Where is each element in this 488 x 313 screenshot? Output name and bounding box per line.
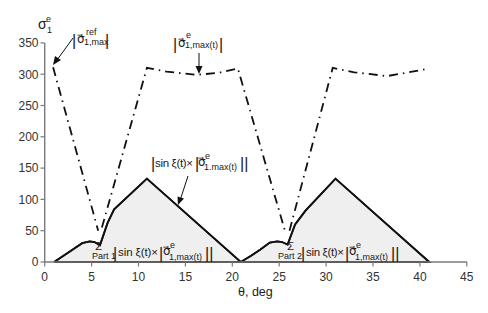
x-tick-label: 5 bbox=[88, 270, 95, 284]
sup-e: e bbox=[205, 151, 210, 161]
sigma-max-t-curve bbox=[53, 67, 98, 230]
annotation-sigma-ref-max: | σ⃗ ref 1,max | bbox=[72, 27, 109, 49]
y-axis-label: σ e 1 bbox=[38, 14, 52, 35]
y-tick-label: 100 bbox=[18, 193, 38, 207]
x-tick-label: 30 bbox=[319, 270, 333, 284]
abs-bar-close: || bbox=[240, 155, 248, 172]
sum-sin-product-curve bbox=[54, 179, 429, 262]
chart-svg: 050100150200250300350 051015202530354045… bbox=[0, 0, 488, 313]
sub-1-max-t: 1,max(t) bbox=[355, 252, 388, 262]
sub-1-max-t: 1.max(t) bbox=[204, 162, 237, 172]
arrow-to-ref-point-icon bbox=[53, 38, 73, 65]
y-label-sup: e bbox=[46, 14, 51, 24]
y-tick-label: 350 bbox=[18, 36, 38, 50]
y-tick-label: 150 bbox=[18, 161, 38, 175]
y-label-sub: 1 bbox=[47, 25, 52, 35]
annotation-sigma-max-t: | σ⃗ e 1,max(t) | bbox=[173, 30, 223, 53]
abs-bar-close: | bbox=[219, 36, 223, 53]
arrow-to-max-curve-icon bbox=[196, 53, 203, 74]
sup-ref: ref bbox=[86, 27, 97, 37]
x-tick-label: 35 bbox=[366, 270, 380, 284]
x-axis-ticks: 051015202530354045 bbox=[41, 262, 473, 284]
y-tick-label: 50 bbox=[25, 224, 39, 238]
x-axis-label: θ, deg bbox=[238, 285, 273, 299]
part-label: Part 2 bbox=[278, 251, 302, 261]
y-axis-ticks: 050100150200250300350 bbox=[18, 36, 44, 269]
abs-bar-open: | bbox=[113, 245, 117, 262]
x-tick-label: 25 bbox=[273, 270, 287, 284]
sup-e: e bbox=[170, 240, 175, 250]
abs-bar-close: || bbox=[391, 245, 399, 262]
x-tick-label: 20 bbox=[226, 270, 240, 284]
sin-xi-text: sin ξ(t)× bbox=[306, 246, 344, 258]
abs-bar-close: || bbox=[205, 245, 213, 262]
x-tick-label: 0 bbox=[41, 270, 48, 284]
dash-dot-curve-layer bbox=[53, 67, 429, 234]
y-tick-label: 200 bbox=[18, 130, 38, 144]
filled-sum-curve-layer bbox=[54, 179, 429, 262]
abs-bar-open: | bbox=[173, 36, 177, 53]
annotation-sin-product: | sin ξ(t)× | σ⃗ e 1.max(t) || bbox=[151, 151, 248, 172]
abs-bar-open: | bbox=[72, 32, 76, 49]
sup-e: e bbox=[356, 240, 361, 250]
x-tick-label: 15 bbox=[179, 270, 193, 284]
abs-bar-open: | bbox=[301, 245, 305, 262]
arrow-to-sum-curve-icon bbox=[178, 176, 189, 205]
sup-e: e bbox=[186, 30, 191, 40]
sub-1-max-t: 1,max(t) bbox=[169, 252, 202, 262]
sub-1-max-t: 1,max(t) bbox=[185, 40, 218, 50]
y-tick-label: 250 bbox=[18, 99, 38, 113]
x-tick-label: 45 bbox=[460, 270, 474, 284]
abs-bar-close: | bbox=[105, 32, 109, 49]
x-tick-label: 10 bbox=[132, 270, 146, 284]
y-tick-label: 300 bbox=[18, 68, 38, 82]
x-tick-label: 40 bbox=[413, 270, 427, 284]
sin-xi-text: sin ξ(t)× bbox=[118, 246, 158, 258]
y-tick-label: 0 bbox=[32, 255, 39, 269]
sin-xi-text: sin ξ(t)× bbox=[155, 157, 193, 169]
chart-figure: 050100150200250300350 051015202530354045… bbox=[0, 0, 488, 313]
